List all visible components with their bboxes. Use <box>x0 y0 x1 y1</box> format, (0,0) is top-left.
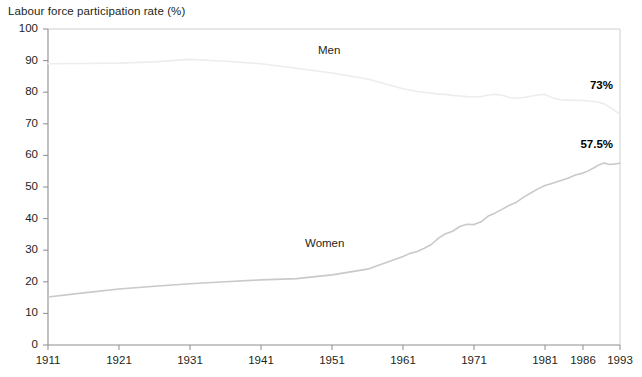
series-label-men: Men <box>318 45 340 57</box>
series-line-men <box>48 59 620 114</box>
y-axis-tick-label: 100 <box>4 23 38 35</box>
y-axis-tick-label: 10 <box>4 307 38 319</box>
end-value-label-men: 73% <box>590 80 613 92</box>
x-axis-tick-label: 1971 <box>461 355 487 367</box>
y-axis-tick-label: 80 <box>4 86 38 98</box>
y-axis-tick-label: 70 <box>4 118 38 130</box>
x-axis-tick-label: 1951 <box>319 355 345 367</box>
x-axis-tick-label: 1941 <box>248 355 274 367</box>
x-axis-tick-label: 1921 <box>106 355 132 367</box>
y-axis-tick-label: 30 <box>4 244 38 256</box>
y-axis-tick-label: 60 <box>4 149 38 161</box>
plot-area <box>0 0 642 377</box>
y-axis-tick-label: 0 <box>4 339 38 351</box>
series-label-women: Women <box>305 238 344 250</box>
x-axis-tick-label: 1931 <box>177 355 203 367</box>
x-axis-tick-label: 1911 <box>36 355 61 367</box>
y-axis-ticks <box>43 29 48 345</box>
chart-figure: Labour force participation rate (%) 0102… <box>0 0 642 377</box>
end-value-label-women: 57.5% <box>580 139 613 151</box>
y-axis-tick-label: 40 <box>4 213 38 225</box>
x-axis-tick-label: 1961 <box>390 355 416 367</box>
y-axis-tick-label: 20 <box>4 276 38 288</box>
x-axis-tick-label: 1981 <box>532 355 558 367</box>
y-axis-tick-label: 50 <box>4 181 38 193</box>
x-axis-tick-label: 1993 <box>607 355 633 367</box>
x-axis-ticks <box>48 345 620 350</box>
y-axis-tick-label: 90 <box>4 55 38 67</box>
series-line-women <box>48 163 620 297</box>
x-axis-tick-label: 1986 <box>570 355 596 367</box>
